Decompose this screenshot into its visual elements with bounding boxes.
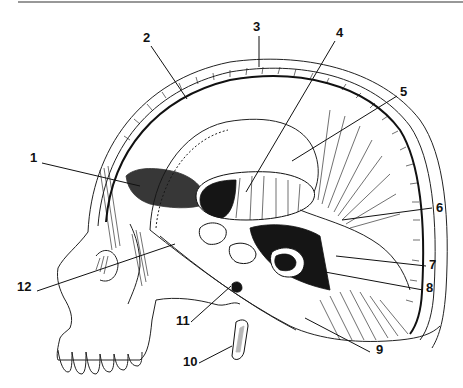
skull-drawing bbox=[57, 59, 447, 374]
svg-text:12: 12 bbox=[17, 279, 31, 294]
callout-7: 7 bbox=[336, 256, 436, 272]
svg-text:6: 6 bbox=[436, 200, 443, 215]
svg-text:2: 2 bbox=[143, 30, 150, 45]
svg-text:5: 5 bbox=[400, 84, 407, 99]
callout-5: 5 bbox=[292, 84, 407, 161]
svg-text:3: 3 bbox=[253, 19, 260, 34]
callout-8: 8 bbox=[325, 272, 433, 295]
callout-11: 11 bbox=[176, 286, 231, 328]
callout-12: 12 bbox=[17, 244, 175, 294]
callout-2: 2 bbox=[143, 30, 187, 99]
svg-text:7: 7 bbox=[429, 257, 436, 272]
svg-text:10: 10 bbox=[183, 354, 197, 369]
skull-dura-diagram: 1 2 3 4 5 6 7 8 9 10 11 12 bbox=[0, 0, 463, 388]
teeth bbox=[58, 350, 142, 374]
svg-text:1: 1 bbox=[30, 150, 37, 165]
callout-1: 1 bbox=[30, 150, 140, 186]
svg-text:8: 8 bbox=[426, 280, 433, 295]
callout-4: 4 bbox=[246, 25, 344, 192]
callout-10: 10 bbox=[183, 346, 232, 369]
falx-fibers bbox=[318, 110, 400, 228]
svg-text:9: 9 bbox=[376, 342, 383, 357]
svg-text:4: 4 bbox=[336, 25, 344, 40]
svg-text:11: 11 bbox=[176, 313, 190, 328]
